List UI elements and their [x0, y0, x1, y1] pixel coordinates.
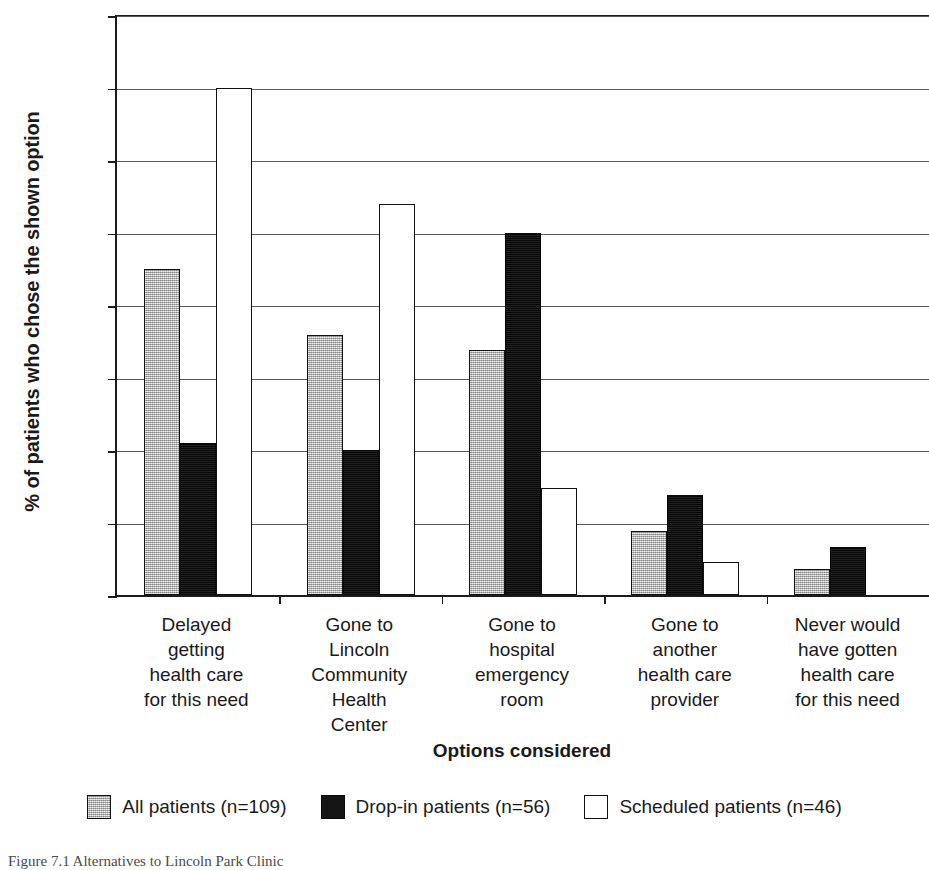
bar-group — [767, 16, 929, 595]
bar-dropin[interactable] — [180, 443, 216, 595]
x-axis-label-line: Gone to — [607, 612, 762, 637]
y-axis-tick-mark — [108, 306, 117, 308]
bar-group-bars — [767, 16, 929, 595]
legend-label: Scheduled patients (n=46) — [619, 796, 841, 818]
x-axis-label-line: Gone to — [445, 612, 600, 637]
y-axis-tick-mark — [108, 16, 117, 18]
bar-scheduled[interactable] — [379, 204, 415, 596]
x-axis-label: Never wouldhave gottenhealth carefor thi… — [766, 612, 929, 737]
bar-group-bars — [117, 16, 279, 595]
x-axis-label: Delayedgettinghealth carefor this need — [115, 612, 278, 737]
bar-dropin[interactable] — [343, 450, 379, 595]
bar-dropin[interactable] — [830, 547, 866, 595]
x-axis-category-labels: Delayedgettinghealth carefor this needGo… — [115, 612, 929, 737]
bar-all[interactable] — [631, 531, 667, 595]
y-axis-tick-mark — [108, 89, 117, 91]
y-axis-tick-mark — [108, 379, 117, 381]
legend-item[interactable]: Drop-in patients (n=56) — [321, 795, 551, 819]
x-axis-label-line: Never would — [770, 612, 925, 637]
x-axis-label-line: another — [607, 637, 762, 662]
bar-group — [604, 16, 766, 595]
bar-all[interactable] — [144, 269, 180, 595]
legend-label: Drop-in patients (n=56) — [356, 796, 551, 818]
bar-dropin[interactable] — [667, 495, 703, 595]
legend-item[interactable]: All patients (n=109) — [87, 795, 286, 819]
x-axis-label-line: Delayed — [119, 612, 274, 637]
legend-item[interactable]: Scheduled patients (n=46) — [584, 795, 841, 819]
x-axis-label-line: for this need — [119, 687, 274, 712]
x-axis-label-line: emergency — [445, 662, 600, 687]
x-axis-label-line: health care — [119, 662, 274, 687]
bar-all[interactable] — [794, 569, 830, 595]
bar-scheduled[interactable] — [541, 488, 577, 595]
legend-swatch-scheduled — [584, 795, 608, 819]
x-axis-title: Options considered — [115, 740, 929, 762]
x-axis-label: Gone tohospitalemergencyroom — [441, 612, 604, 737]
y-axis-tick-mark — [108, 451, 117, 453]
figure-caption: Figure 7.1 Alternatives to Lincoln Park … — [8, 853, 283, 870]
x-axis-label-line: for this need — [770, 687, 925, 712]
bar-dropin[interactable] — [505, 233, 541, 596]
y-axis-tick-mark — [108, 161, 117, 163]
x-axis-label-line: hospital — [445, 637, 600, 662]
chart-legend: All patients (n=109)Drop-in patients (n=… — [0, 795, 929, 819]
x-axis-label-line: have gotten — [770, 637, 925, 662]
plot-area: 0%10%20%30%40%50%60%70%80% — [115, 15, 929, 597]
bar-group — [442, 16, 604, 595]
x-axis-label-line: Gone to — [282, 612, 437, 637]
bar-group — [117, 16, 279, 595]
x-axis-label-line: room — [445, 687, 600, 712]
y-axis-tick-mark — [108, 524, 117, 526]
bar-scheduled[interactable] — [216, 88, 252, 596]
x-axis-group-separator-tick — [279, 595, 281, 604]
x-axis-label: Gone toLincolnCommunityHealthCenter — [278, 612, 441, 737]
x-axis-label-line: Health — [282, 687, 437, 712]
bar-group-bars — [604, 16, 766, 595]
y-axis-tick-mark — [108, 596, 117, 598]
bar-group — [279, 16, 441, 595]
legend-swatch-dropin — [321, 795, 345, 819]
x-axis-group-separator-tick — [604, 595, 606, 604]
bar-group-bars — [442, 16, 604, 595]
x-axis-group-separator-tick — [767, 595, 769, 604]
x-axis-label-line: Center — [282, 712, 437, 737]
figure-bar-chart: % of patients who chose the shown option… — [0, 0, 929, 870]
x-axis-label-line: health care — [770, 662, 925, 687]
x-axis-group-separator-tick — [442, 595, 444, 604]
x-axis-label-line: health care — [607, 662, 762, 687]
x-axis-label: Gone toanotherhealth careprovider — [603, 612, 766, 737]
bar-all[interactable] — [307, 335, 343, 595]
x-axis-label-line: Community — [282, 662, 437, 687]
y-axis-tick-mark — [108, 234, 117, 236]
bar-groups — [117, 16, 929, 595]
x-axis-label-line: provider — [607, 687, 762, 712]
x-axis-label-line: Lincoln — [282, 637, 437, 662]
legend-label: All patients (n=109) — [122, 796, 286, 818]
legend-swatch-all — [87, 795, 111, 819]
bar-all[interactable] — [469, 350, 505, 595]
bar-group-bars — [279, 16, 441, 595]
bar-scheduled[interactable] — [703, 562, 739, 595]
x-axis-label-line: getting — [119, 637, 274, 662]
y-axis-title: % of patients who chose the shown option — [21, 22, 44, 602]
